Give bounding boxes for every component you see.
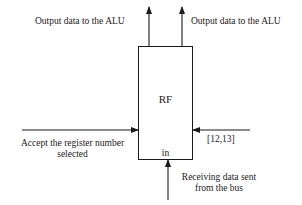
input-port-label: in — [139, 148, 192, 158]
output-label-left: Output data to the ALU — [35, 16, 125, 27]
bus-data-label: Receiving data sent from the bus — [174, 172, 264, 194]
register-number-label: Accept the register number selected — [10, 138, 135, 160]
register-number-label-line2: selected — [10, 149, 135, 160]
register-file-block: RF in — [138, 46, 193, 160]
bus-data-label-line2: from the bus — [174, 183, 264, 194]
output-label-right: Output data to the ALU — [191, 16, 281, 27]
instruction-bits-label: [12,13] — [207, 134, 235, 145]
register-number-label-line1: Accept the register number — [10, 138, 135, 149]
register-file-title: RF — [139, 93, 192, 105]
bus-data-label-line1: Receiving data sent — [174, 172, 264, 183]
